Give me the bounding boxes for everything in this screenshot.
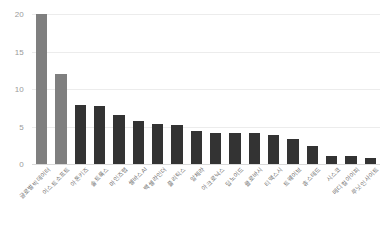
bar[interactable] [268,135,280,164]
x-tick-label: 트웨이브 [282,166,304,188]
bar[interactable] [345,156,357,164]
x-axis-labels: 글로벌빅데이터이스트소프트아톤키즈솔트룩스마인즈랩셀바스AI백셀라인더플리틱스알… [32,166,380,224]
bar-slot [129,14,148,164]
bar-slot [51,14,70,164]
y-tick-label: 10 [15,85,24,94]
x-tick-label: 클로바시 [243,166,265,188]
bar[interactable] [307,146,319,164]
bar-slot [187,14,206,164]
bar-slot [71,14,90,164]
bar[interactable] [36,14,48,164]
bar[interactable] [55,74,67,164]
bar[interactable] [365,158,377,164]
bar-slot [206,14,225,164]
x-tick-label: 시스코 [325,166,343,184]
bar-slot [303,14,322,164]
bar-slot [283,14,302,164]
bar-slot [167,14,186,164]
bar-slot [245,14,264,164]
plot-area [32,14,380,164]
bar[interactable] [171,125,183,164]
bar-series [32,14,380,164]
x-tick-label: 아톤키즈 [69,166,91,188]
bar[interactable] [210,133,222,165]
bar-slot [341,14,360,164]
x-tick-label: 티맥스시 [263,166,285,188]
bar[interactable] [152,124,164,164]
bar[interactable] [94,106,106,165]
bar-slot [148,14,167,164]
gridline-0 [32,164,380,165]
bar-slot [264,14,283,164]
bar-chart: 05101520 글로벌빅데이터이스트소프트아톤키즈솔트룩스마인즈랩셀바스AI백… [0,0,391,225]
y-tick-label: 0 [19,160,24,169]
x-tick-label: 마인즈랩 [108,166,130,188]
bar[interactable] [229,133,241,164]
bar[interactable] [113,115,125,164]
x-tick-label: 솔트룩스 [89,166,111,188]
bar-slot [90,14,109,164]
bar[interactable] [326,156,338,164]
bar[interactable] [75,105,87,164]
y-tick-label: 20 [15,10,24,19]
bar-slot [225,14,244,164]
x-tick-label: 플리틱스 [166,166,188,188]
bar-slot [361,14,380,164]
bar[interactable] [249,133,261,164]
bar-slot [32,14,51,164]
bar-slot [109,14,128,164]
bar[interactable] [133,121,145,164]
bar[interactable] [191,131,203,164]
x-tick-label: 휴스테드 [301,166,323,188]
x-tick-label: 알체라 [190,166,208,184]
x-tick-label: 딥노이드 [224,166,246,188]
bar-slot [322,14,341,164]
y-axis: 05101520 [0,14,28,164]
bar[interactable] [287,139,299,164]
y-tick-label: 5 [19,122,24,131]
y-tick-label: 15 [15,47,24,56]
